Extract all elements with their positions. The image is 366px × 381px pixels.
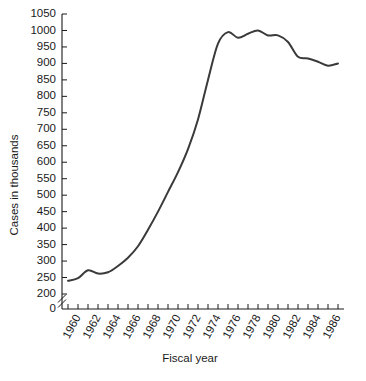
x-axis-title: Fiscal year [162,352,218,364]
y-tick-label: 550 [37,172,56,184]
x-tick-label: 1960 [60,312,83,340]
y-tick-label: 900 [37,56,56,68]
x-tick-label: 1972 [180,312,203,340]
y-tick-label: 350 [37,238,56,250]
y-axis-ticks [62,14,67,294]
y-tick-label: 800 [37,89,56,101]
y-tick-label: 950 [37,40,56,52]
y-tick-label: 300 [37,254,56,266]
x-tick-label: 1974 [200,312,223,341]
y-axis-title: Cases in thousands [8,134,20,235]
x-tick-label: 1964 [100,312,123,341]
x-tick-label: 1970 [160,312,183,340]
y-tick-label: 750 [37,106,56,118]
x-axis-tick-labels: 1960196219641966196819701972197419761978… [60,312,343,341]
x-tick-label: 1968 [140,312,163,340]
x-tick-label: 1982 [280,312,303,340]
x-tick-label: 1986 [320,312,343,340]
y-tick-label: 500 [37,188,56,200]
y-tick-label-zero: 0 [50,302,56,314]
x-tick-label: 1962 [80,312,103,340]
x-tick-label: 1984 [300,312,323,341]
x-tick-label: 1978 [240,312,263,340]
y-tick-label: 450 [37,205,56,217]
x-tick-label: 1976 [220,312,243,340]
y-tick-label: 400 [37,221,56,233]
y-tick-label: 200 [37,287,56,299]
y-tick-label: 250 [37,271,56,283]
y-tick-label: 600 [37,155,56,167]
x-tick-label: 1966 [120,312,143,340]
figure-container: 2002503003504004505005506006507007508008… [0,0,366,381]
y-tick-label: 700 [37,122,56,134]
y-axis-tick-labels: 2002503003504004505005506006507007508008… [30,7,56,314]
y-tick-label: 1000 [30,24,56,36]
y-tick-label: 850 [37,73,56,85]
y-tick-label: 650 [37,139,56,151]
data-series-line [68,30,338,280]
x-axis-ticks [68,304,338,309]
line-chart: 2002503003504004505005506006507007508008… [0,0,366,381]
x-tick-label: 1980 [260,312,283,340]
y-tick-label: 1050 [30,7,56,19]
